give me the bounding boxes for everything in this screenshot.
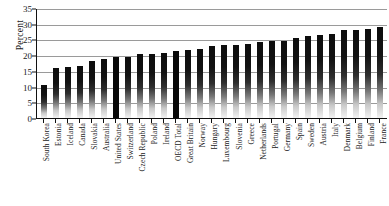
bar-poland [149, 54, 155, 118]
bar-slot [338, 9, 350, 118]
y-axis-tick-35: 35 [23, 4, 32, 14]
x-label-slot: Canada [73, 123, 85, 199]
x-label-slot: Estonia [49, 123, 61, 199]
x-label-slot: Finland [362, 123, 374, 199]
bar-slot [242, 9, 254, 118]
bar-belgium [353, 30, 359, 118]
bar-iceland [65, 67, 71, 118]
bar-slot [350, 9, 362, 118]
y-axis-tick-15: 15 [23, 67, 32, 77]
x-label-slot: Australia [97, 123, 109, 199]
bar-slot [74, 9, 86, 118]
bar-great-britain [185, 50, 191, 119]
bar-slot [362, 9, 374, 118]
bar-austria [317, 35, 323, 118]
x-label-slot: Denmark [338, 123, 350, 199]
bar-slovenia [233, 45, 239, 118]
bar-spain [293, 38, 299, 118]
bar-estonia [53, 68, 59, 118]
bar-slot [170, 9, 182, 118]
bar-slot [50, 9, 62, 118]
bar-slot [374, 9, 386, 118]
bar-slot [134, 9, 146, 118]
bar-ireland [161, 53, 167, 118]
y-axis-tick-10: 10 [23, 83, 32, 93]
bar-series [37, 9, 387, 118]
bar-slot [86, 9, 98, 118]
bar-hungary [209, 46, 215, 118]
y-axis-tick-0: 0 [28, 114, 33, 124]
x-label-slot: Sweden [302, 123, 314, 199]
y-axis-tick-labels: 05101520253035 [0, 9, 36, 119]
x-label-slot: Italy [326, 123, 338, 199]
bar-greece [245, 44, 251, 118]
bar-norway [197, 49, 203, 118]
y-axis-tick-30: 30 [23, 20, 32, 30]
x-label-slot: Iceland [61, 123, 73, 199]
y-axis-tick-20: 20 [23, 51, 32, 61]
bar-slot [230, 9, 242, 118]
x-label-slot: Slovenia [230, 123, 242, 199]
bar-slot [266, 9, 278, 118]
bar-sweden [305, 36, 311, 118]
x-label-slot: Switzerland [121, 123, 133, 199]
x-label-slot: South Korea [37, 123, 49, 199]
y-axis-tick-5: 5 [28, 98, 33, 108]
bar-slot [290, 9, 302, 118]
bar-switzerland [125, 57, 131, 118]
bar-germany [281, 41, 287, 118]
bar-france [377, 27, 383, 118]
x-label-slot: Poland [145, 123, 157, 199]
figure-caption [0, 199, 389, 206]
x-label-slot: Ireland [157, 123, 169, 199]
bar-oecd-total [173, 51, 179, 118]
bar-slot [302, 9, 314, 118]
bar-slot [326, 9, 338, 118]
bar-canada [77, 66, 83, 118]
bar-netherlands [257, 42, 263, 118]
bar-slot [146, 9, 158, 118]
bar-slot [206, 9, 218, 118]
x-label-slot: Spain [290, 123, 302, 199]
x-label-slot: Czech Republic [133, 123, 145, 199]
x-label-slot: Austria [314, 123, 326, 199]
x-axis-category-labels: South KoreaEstoniaIcelandCanadaSlovakiaA… [36, 123, 387, 199]
bar-slot [122, 9, 134, 118]
bar-slot [158, 9, 170, 118]
x-label-slot: Great Britain [181, 123, 193, 199]
x-label-slot: Portugal [266, 123, 278, 199]
x-label-slot: Germany [278, 123, 290, 199]
bar-united-states [113, 57, 119, 118]
x-label-slot: Norway [193, 123, 205, 199]
bar-slot [110, 9, 122, 118]
x-label-slot: United States [109, 123, 121, 199]
bar-portugal [269, 41, 275, 118]
bar-chart: Percent 05101520253035 South KoreaEstoni… [0, 0, 389, 206]
bar-luxembourg [221, 45, 227, 118]
bar-slot [98, 9, 110, 118]
x-label-slot: OECD Total [169, 123, 181, 199]
bar-denmark [341, 30, 347, 118]
bar-czech-republic [137, 54, 143, 118]
bar-slot [254, 9, 266, 118]
x-label-slot: Belgium [350, 123, 362, 199]
bar-slot [62, 9, 74, 118]
bar-australia [101, 59, 107, 118]
x-label-slot: Slovakia [85, 123, 97, 199]
plot-area [36, 9, 387, 119]
y-axis-tick-25: 25 [23, 35, 32, 45]
bar-slot [182, 9, 194, 118]
x-label-slot: Greece [242, 123, 254, 199]
bar-slot [278, 9, 290, 118]
bar-italy [329, 34, 335, 118]
bar-south-korea [41, 85, 47, 118]
bar-slot [314, 9, 326, 118]
x-label-slot: France [374, 123, 386, 199]
bar-slot [38, 9, 50, 118]
bar-finland [365, 29, 371, 118]
x-label-slot: Netherlands [254, 123, 266, 199]
x-label-slot: Luxembourg [217, 123, 229, 199]
x-label-slot: Hungary [205, 123, 217, 199]
bar-slovakia [89, 61, 95, 118]
x-axis-label-france: France [380, 123, 388, 144]
